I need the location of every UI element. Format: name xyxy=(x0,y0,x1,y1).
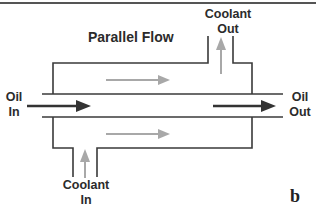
oil-out-label-line1: Oil xyxy=(285,90,315,105)
coolant-out-label: Coolant Out xyxy=(196,7,260,37)
diagram-title: Parallel Flow xyxy=(88,30,198,45)
oil-in-label-line2: In xyxy=(2,105,26,120)
oil-out-label: Oil Out xyxy=(285,90,315,120)
oil-out-label-line2: Out xyxy=(285,105,315,120)
oil-in-label-line1: Oil xyxy=(2,90,26,105)
coolant-in-label: Coolant In xyxy=(54,178,118,208)
coolant-in-label-line2: In xyxy=(54,193,118,208)
oil-in-arrow-icon xyxy=(27,100,91,112)
coolant-lower-flow-arrow-icon xyxy=(106,129,170,139)
coolant-out-label-line2: Out xyxy=(196,22,260,37)
coolant-inlet-arrow-icon xyxy=(80,149,90,178)
oil-out-arrow-icon xyxy=(213,100,276,112)
coolant-outlet-arrow-icon xyxy=(216,37,226,74)
coolant-upper-flow-arrow-icon xyxy=(106,75,170,85)
diagram-frame: Parallel Flow Oil In Oil Out Coolant Out… xyxy=(0,0,316,212)
panel-letter: b xyxy=(290,186,300,207)
coolant-in-label-line1: Coolant xyxy=(54,178,118,193)
oil-in-label: Oil In xyxy=(2,90,26,120)
coolant-out-label-line1: Coolant xyxy=(196,7,260,22)
